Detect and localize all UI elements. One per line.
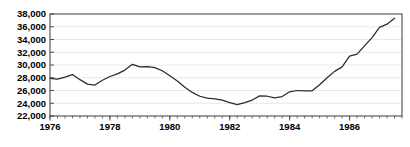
x-axis-tick-label: 1978 xyxy=(99,121,120,132)
y-axis-tick-label: 36,000 xyxy=(17,21,46,32)
y-axis-tick-label: 22,000 xyxy=(17,110,46,121)
y-axis-tick-label: 38,000 xyxy=(17,8,46,19)
y-axis-tick-label: 28,000 xyxy=(17,72,46,83)
x-axis-tick-label: 1984 xyxy=(279,121,301,132)
y-axis-tick-labels: 38,00036,00034,00032,00030,00028,00026,0… xyxy=(17,8,46,121)
x-axis-tick-labels: 197619781980198219841986 xyxy=(39,121,360,132)
x-axis-tick-label: 1976 xyxy=(39,121,60,132)
line-chart: 38,00036,00034,00032,00030,00028,00026,0… xyxy=(0,0,410,147)
x-axis-tick-label: 1982 xyxy=(219,121,240,132)
y-axis-tick-label: 26,000 xyxy=(17,85,46,96)
x-axis-tick-label: 1986 xyxy=(339,121,360,132)
y-axis-tick-label: 34,000 xyxy=(17,34,46,45)
chart-canvas: 38,00036,00034,00032,00030,00028,00026,0… xyxy=(0,0,410,147)
y-axis-tick-label: 32,000 xyxy=(17,47,46,58)
y-axis-tick-label: 30,000 xyxy=(17,59,46,70)
y-axis-tick-label: 24,000 xyxy=(17,98,46,109)
x-axis-tick-label: 1980 xyxy=(159,121,180,132)
